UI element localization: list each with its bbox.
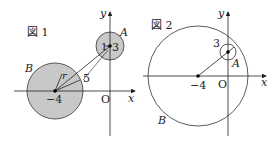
figure-2-title: 図 2 (151, 19, 173, 32)
y-axis-label: y (217, 7, 225, 20)
figure-1-title: 図 1 (27, 26, 49, 39)
center-b-dot (196, 74, 200, 78)
center-b-label: −4 (46, 93, 62, 106)
circle-b-label: B (24, 62, 33, 75)
diagram-canvas: 図 1 y x O A B −4 1 3 r 5 図 2 y x O A B −… (0, 0, 277, 144)
figure-2: 図 2 y x O A B −4 3 (143, 7, 268, 136)
x-axis-label: x (128, 92, 135, 105)
distance-label: 5 (83, 72, 90, 85)
circle-a-label: A (231, 57, 240, 70)
center-b-label: −4 (190, 79, 206, 92)
origin-label: O (218, 78, 227, 91)
x-axis-label: x (261, 76, 268, 89)
figure-1: 図 1 y x O A B −4 1 3 r 5 (14, 7, 135, 136)
origin-label: O (101, 93, 110, 106)
circle-b-label: B (157, 114, 166, 127)
y-axis-label: y (99, 7, 107, 20)
radius-a-label: 1 (101, 41, 107, 52)
circle-a-label: A (119, 26, 128, 39)
center-a-label: 3 (112, 41, 119, 54)
center-a-dot (226, 50, 230, 54)
radius-a-label: 3 (213, 37, 220, 50)
center-line (198, 52, 228, 76)
